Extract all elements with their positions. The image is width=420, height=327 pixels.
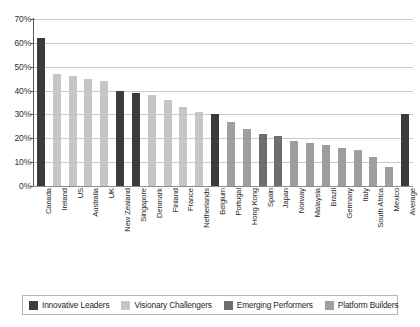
y-axis-tick-label: 0% [1,181,31,191]
bar [53,74,61,186]
x-axis-tick-label: Finland [171,188,180,264]
bar [179,107,187,186]
legend-item[interactable]: Platform Builders [325,300,399,310]
x-axis-tick-label: Norway [297,188,306,264]
y-axis-tick-label: 70% [1,14,31,24]
legend-label: Emerging Performers [237,300,313,310]
legend-label: Innovative Leaders [42,300,109,310]
x-axis-tick-label: Hong Kong [250,188,259,264]
y-axis-tick-label: 60% [1,38,31,48]
x-axis-tick-label: UK [107,188,116,264]
bar [69,76,77,186]
x-axis-tick-label: Germany [345,188,354,264]
bar [369,157,377,186]
bar [100,81,108,186]
chart-legend: Innovative LeadersVisionary ChallengersE… [22,295,398,315]
x-axis-tick-label: Ireland [60,188,69,264]
x-axis-tick-label: Singapore [139,188,148,264]
legend-item[interactable]: Emerging Performers [224,300,313,310]
bar [290,141,298,186]
x-axis-tick-label: US [76,188,85,264]
legend-swatch-icon [121,301,130,310]
x-axis-tick-label: Italy [361,188,370,264]
y-axis: 70%60%50%40%30%20%10%0% [0,0,31,200]
legend-label: Platform Builders [338,300,399,310]
bar [227,122,235,186]
bar [322,145,330,186]
bar [274,136,282,186]
x-axis-labels: CanadaIrelandUSAustraliaUKNew ZealandSin… [33,188,413,280]
legend-swatch-icon [325,301,334,310]
bar [243,129,251,186]
y-axis-tick-label: 10% [1,157,31,167]
legend-swatch-icon [224,301,233,310]
legend-swatch-icon [29,301,38,310]
bar-series-group [33,19,413,186]
bar [338,148,346,186]
x-axis-tick-label: New Zealand [123,188,132,264]
bar [385,167,393,186]
bar [164,100,172,186]
x-axis-tick-label: Brazil [329,188,338,264]
x-axis-tick-label: Mexico [392,188,401,264]
x-axis-tick-label: South Africa [376,188,385,264]
legend-label: Visionary Challengers [134,300,211,310]
x-axis-tick-label: France [186,188,195,264]
y-axis-tick-label: 50% [1,62,31,72]
x-axis-tick-label: Portugal [234,188,243,264]
bar [259,134,267,186]
bar [148,95,156,186]
x-axis-tick-label: Canada [44,188,53,264]
bar [132,93,140,186]
bar [306,143,314,186]
x-axis-tick-label: Japan [281,188,290,264]
x-axis-tick-label: Average [408,188,417,264]
y-axis-tick-label: 30% [1,109,31,119]
x-axis-tick-label: Belgium [218,188,227,264]
y-axis-tick-label: 20% [1,133,31,143]
bar-chart: 70%60%50%40%30%20%10%0% CanadaIrelandUSA… [0,0,420,327]
bar [84,79,92,186]
legend-item[interactable]: Visionary Challengers [121,300,211,310]
bar [37,38,45,186]
bar [116,91,124,186]
bar [211,114,219,186]
x-axis-line [33,186,413,187]
legend-item[interactable]: Innovative Leaders [29,300,109,310]
x-axis-tick-label: Denmark [155,188,164,264]
bar [401,114,409,186]
x-axis-tick-label: Netherlands [202,188,211,264]
x-axis-tick-label: Spain [266,188,275,264]
x-axis-tick-label: Australia [91,188,100,264]
y-axis-tick-label: 40% [1,86,31,96]
x-axis-tick-label: Malaysia [313,188,322,264]
bar [354,150,362,186]
bar [195,112,203,186]
